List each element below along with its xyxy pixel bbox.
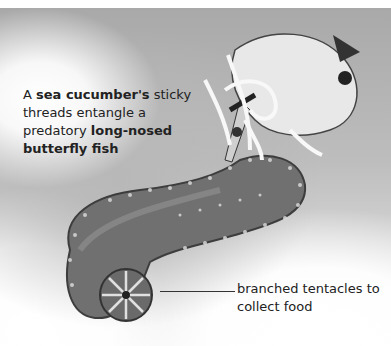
illustration-scene: A sea cucumber's sticky threads entangle… xyxy=(0,0,391,346)
caption-bold-sea-cucumber: sea cucumber's xyxy=(36,87,150,102)
long-nosed-butterfly-fish xyxy=(205,34,360,162)
main-caption: A sea cucumber's sticky threads entangle… xyxy=(23,86,203,158)
branched-tentacles xyxy=(100,269,152,321)
annotation-leader-line xyxy=(160,291,235,292)
tentacles-annotation: branched tentacles to collect food xyxy=(237,280,387,316)
